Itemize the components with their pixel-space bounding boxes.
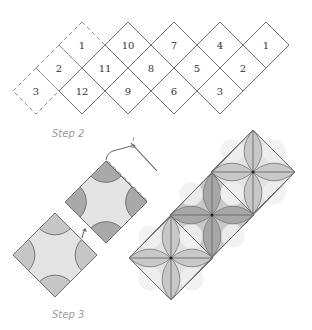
grid-cell-number: 12 xyxy=(76,86,89,97)
grid-cell-number: 5 xyxy=(194,63,200,74)
grid-cell-number: 2 xyxy=(240,63,246,74)
needle-and-thread-icon xyxy=(106,137,157,171)
quarter-circle-corner xyxy=(13,240,35,271)
grid-cell-number: 1 xyxy=(79,40,85,51)
grid-cell-number: 3 xyxy=(33,86,39,97)
step3-sewing-blocks xyxy=(13,161,147,297)
quarter-circle-corner xyxy=(91,222,121,243)
block-being-sewn xyxy=(65,161,147,243)
grid-cell-number: 9 xyxy=(125,86,131,97)
center-point xyxy=(211,214,214,217)
grid-cell-number: 6 xyxy=(171,86,177,97)
grid-cell-number: 10 xyxy=(122,40,135,51)
grid-cell-number: 8 xyxy=(148,63,154,74)
block-to-attach xyxy=(13,213,97,297)
grid-cell-number: 2 xyxy=(56,63,62,74)
center-point xyxy=(252,171,255,174)
step-3-label: Step 3 xyxy=(52,309,84,320)
quarter-circle-corner xyxy=(40,275,71,297)
step-2-label: Step 2 xyxy=(52,128,84,139)
quarter-circle-corner xyxy=(40,213,71,235)
quilt-assembly-diagram: 110741211852312963 xyxy=(0,0,312,330)
quarter-circle-corner xyxy=(65,187,86,217)
quarter-circle-corner xyxy=(75,240,97,271)
grid-cell-number: 4 xyxy=(217,40,223,51)
grid-cell-number: 3 xyxy=(217,86,223,97)
grid-cell-number: 11 xyxy=(99,63,112,74)
grid-cell-number: 7 xyxy=(171,40,177,51)
quilt-strip xyxy=(129,130,295,300)
grid-cell-number: 1 xyxy=(263,40,269,51)
step2-numbered-grid: 110741211852312963 xyxy=(13,22,289,114)
arrow-up-icon xyxy=(82,229,86,239)
center-point xyxy=(170,257,173,260)
